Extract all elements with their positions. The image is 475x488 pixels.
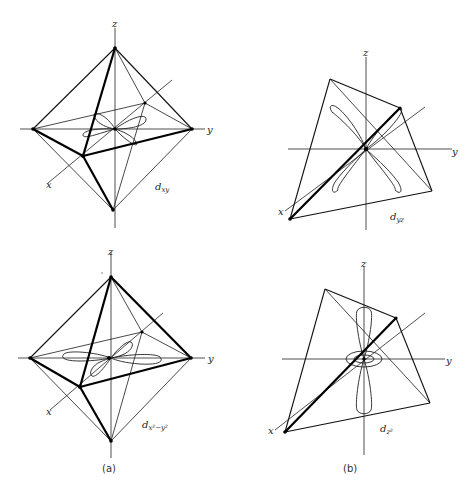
orbital-label-dz2: dz² (380, 423, 393, 436)
caption-a: (a) (102, 463, 116, 474)
z-axis-label: z (360, 258, 367, 269)
panel-dxy-octahedron: z y x dxy (20, 18, 213, 228)
z-axis-label: z (362, 47, 369, 58)
y-axis-label: y (451, 146, 458, 157)
x-axis-label: x (268, 425, 274, 436)
orbital-label-dxy: dxy (155, 181, 170, 194)
x-axis-label: x (46, 179, 52, 190)
panel-dx2y2-octahedron: z y x dx²−y² (a) (18, 246, 214, 474)
orbital-diagram-figure: z y x dxy z y x dyz (0, 0, 475, 488)
x-axis (275, 313, 425, 430)
orbital-label-dyz: dyz (390, 211, 404, 224)
x-axis-label: x (278, 206, 284, 217)
z-axis-label: z (107, 246, 114, 257)
panel-dyz-tetrahedron: z y x dyz (278, 47, 458, 230)
caption-b: (b) (343, 463, 357, 474)
panel-dz2-tetrahedron: z y x dz² (b) (268, 258, 452, 474)
y-axis-label: y (207, 353, 214, 364)
x-axis-label: x (46, 406, 52, 417)
y-axis-label: y (206, 124, 213, 135)
z-axis-label: z (111, 18, 118, 29)
orbital-label-dx2y2: dx²−y² (142, 419, 168, 432)
y-axis-label: y (445, 355, 452, 366)
